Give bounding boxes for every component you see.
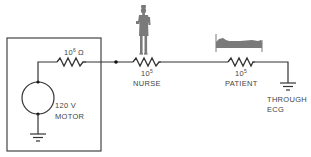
junction-node	[114, 60, 118, 64]
wire-patient-to-ground	[255, 62, 288, 83]
patient-in-bed-icon	[216, 34, 262, 52]
motor-voltage-label: 120 V	[55, 101, 76, 110]
nurse-figure-icon	[136, 5, 151, 55]
resistor-icon	[57, 58, 86, 66]
patient-label: PATIENT	[225, 79, 258, 88]
circuit-diagram: 106Ω 120 V MOTOR 105 NURSE 105 PATIENT T…	[0, 0, 311, 157]
motor	[22, 80, 54, 115]
ground-label-line1: THROUGH	[267, 95, 307, 104]
resistor-icon	[228, 58, 255, 66]
patient-resistance-label: 105	[235, 68, 247, 78]
wire-motor-to-resistor	[38, 62, 57, 82]
nurse-label: NURSE	[133, 79, 161, 88]
motor-name-label: MOTOR	[55, 112, 85, 121]
motor-ground-icon	[30, 114, 46, 141]
motor-resistor-label: 106Ω	[64, 47, 84, 57]
resistor-icon	[133, 58, 161, 66]
ground-label-line2: ECG	[267, 105, 284, 114]
nurse-resistance-label: 105	[141, 68, 153, 78]
motor-circle-icon	[22, 82, 54, 114]
ecg-ground-icon	[280, 83, 296, 90]
